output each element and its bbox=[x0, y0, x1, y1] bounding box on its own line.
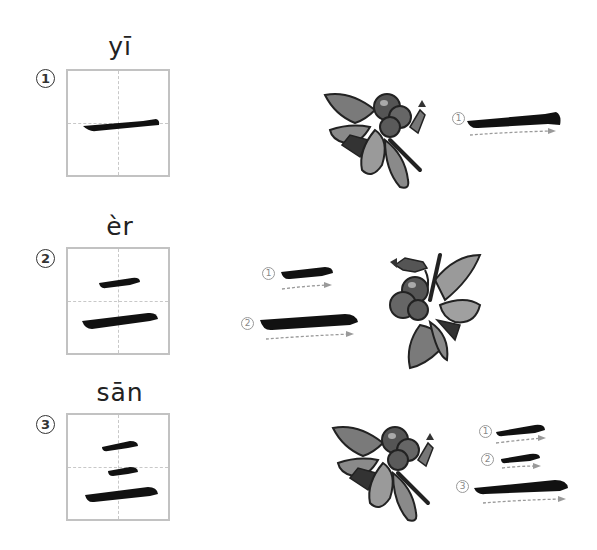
stroke-order-2: 2 bbox=[481, 453, 494, 466]
character-grid-yi bbox=[66, 69, 170, 177]
row-number-2: 2 bbox=[36, 249, 55, 268]
stroke-order-1: 1 bbox=[452, 112, 465, 125]
row-number-3: 3 bbox=[36, 415, 55, 434]
character-san-glyph bbox=[68, 415, 172, 523]
pinyin-yi: yī bbox=[67, 32, 173, 61]
character-er-glyph bbox=[68, 249, 172, 357]
stroke-order-2: 2 bbox=[241, 317, 254, 330]
pinyin-san: sān bbox=[67, 378, 173, 407]
character-grid-er bbox=[66, 247, 170, 355]
character-grid-san bbox=[66, 413, 170, 521]
stroke-order-1: 1 bbox=[479, 425, 492, 438]
character-yi-glyph bbox=[68, 71, 172, 179]
pinyin-er: èr bbox=[67, 212, 173, 241]
stroke-order-1: 1 bbox=[262, 267, 275, 280]
stroke-order-3: 3 bbox=[456, 480, 469, 493]
row-number-1: 1 bbox=[36, 69, 55, 88]
